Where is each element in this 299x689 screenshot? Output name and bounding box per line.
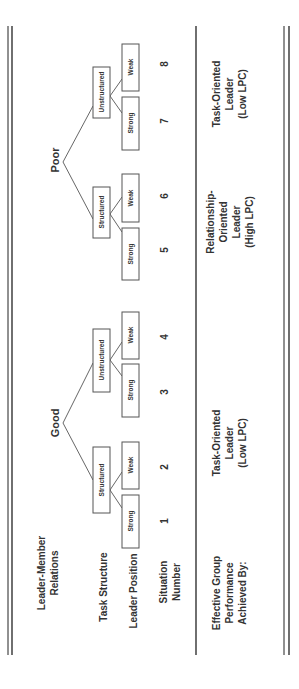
situation-3: 3 [159,389,170,395]
svg-text:(High LPC): (High LPC) [244,196,255,248]
svg-text:(Low LPC): (Low LPC) [237,418,248,467]
svg-text:Effective Group: Effective Group [211,556,222,630]
fiedler-contingency-diagram: Poor Good Unstructured Structured Unstru… [0,0,299,689]
svg-text:Situation: Situation [158,561,169,604]
leader-position-strong-3: Strong [122,364,139,417]
svg-text:Achieved By:: Achieved By: [237,561,248,624]
leader-position-strong-5: Strong [122,228,139,280]
leader-position-weak-8: Weak [122,44,139,91]
leader-position-weak-6: Weak [122,174,139,222]
tree-edges [63,79,122,508]
row-label-effective-performance: Effective Group Performance Achieved By: [211,556,248,630]
svg-text:Leader-Member: Leader-Member [36,536,47,611]
outcome-relationship-oriented-situations-4-6: Relationship- Oriented Leader (High LPC) [205,190,255,253]
svg-text:Unstructured: Unstructured [98,72,105,113]
relations-good: Good [49,409,61,438]
task-structure-structured-poor: Structured [93,187,110,238]
relations-poor: Poor [49,147,61,173]
task-structure-unstructured-poor: Unstructured [93,67,110,118]
leader-position-strong-1: Strong [122,495,139,548]
svg-text:Weak: Weak [127,456,134,473]
outcome-task-oriented-situations-7-8: Task-Oriented Leader (Low LPC) [211,61,248,128]
svg-text:Strong: Strong [127,113,135,134]
row-label-relations: Leader-Member Relations [36,536,60,611]
svg-text:(Low LPC): (Low LPC) [237,69,248,118]
row-label-situation-number: Situation Number [158,561,182,604]
leader-position-strong-7: Strong [122,97,139,150]
svg-text:Structured: Structured [98,464,105,497]
svg-text:Weak: Weak [127,326,134,343]
situation-6: 6 [159,193,170,199]
situation-8: 8 [159,61,170,67]
situation-numbers: 8 7 6 5 4 3 2 1 [159,61,170,524]
situation-7: 7 [159,118,170,124]
svg-text:Leader: Leader [224,426,235,459]
situation-5: 5 [159,247,170,253]
situation-2: 2 [159,464,170,470]
svg-text:Task-Oriented: Task-Oriented [211,61,222,128]
svg-text:Performance: Performance [224,562,235,624]
outcome-task-oriented-situations-1-3: Task-Oriented Leader (Low LPC) [211,410,248,477]
situation-1: 1 [159,518,170,524]
svg-text:Number: Number [171,563,182,601]
svg-text:Task-Oriented: Task-Oriented [211,410,222,477]
svg-text:Weak: Weak [127,189,134,206]
leader-position-weak-4: Weak [122,312,139,359]
svg-text:Relationship-: Relationship- [205,190,216,253]
svg-text:Unstructured: Unstructured [98,340,105,381]
svg-text:Strong: Strong [127,380,135,401]
svg-text:Strong: Strong [127,244,135,265]
svg-text:Relations: Relations [49,550,60,595]
svg-text:Structured: Structured [98,196,105,229]
row-label-task-structure: Task Structure [98,552,109,622]
leader-position-weak-2: Weak [122,442,139,489]
svg-text:Oriented: Oriented [218,201,229,242]
task-structure-unstructured-good: Unstructured [93,329,110,392]
task-structure-structured-good: Structured [93,447,110,513]
svg-text:Leader: Leader [231,205,242,238]
situation-4: 4 [159,334,170,340]
svg-text:Leader: Leader [224,77,235,110]
svg-text:Strong: Strong [127,511,135,532]
svg-text:Weak: Weak [127,58,134,75]
row-label-leader-position: Leader Position [128,553,139,628]
